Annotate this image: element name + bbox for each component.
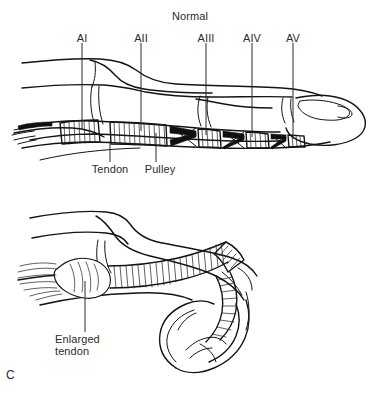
tendon-sheath-striated — [108, 242, 228, 288]
figure-container: Normal AI AII AIII AIV AV Tendon Pulley … — [0, 0, 384, 393]
label-pulley-a2: AII — [134, 33, 148, 45]
label-pulley: Pulley — [145, 164, 176, 176]
pulley-a5 — [288, 135, 305, 147]
pulley-c1-cruciate — [170, 126, 196, 146]
label-pulley-a4: AIV — [243, 33, 261, 45]
label-pulley-a5: AV — [286, 33, 300, 45]
tendon-proximal-end — [12, 122, 52, 144]
normal-finger-drawing — [12, 59, 365, 160]
tendon-sheath-distal — [206, 272, 237, 342]
pulley-a4 — [246, 132, 269, 148]
pulley-a3 — [198, 129, 221, 148]
label-pulley-a1: AI — [77, 33, 88, 45]
label-pulley-a3: AIII — [198, 33, 215, 45]
label-enlarged-tendon-line2: tendon — [55, 346, 89, 358]
enlarged-tendon-mass — [18, 258, 110, 300]
label-tendon: Tendon — [92, 164, 129, 176]
pulley-c2-cruciate — [223, 131, 244, 149]
label-enlarged-tendon-line1: Enlarged — [55, 334, 100, 346]
figure-letter: C — [6, 370, 15, 382]
trigger-finger-drawing — [18, 211, 257, 372]
panel-title-normal: Normal — [172, 11, 208, 23]
